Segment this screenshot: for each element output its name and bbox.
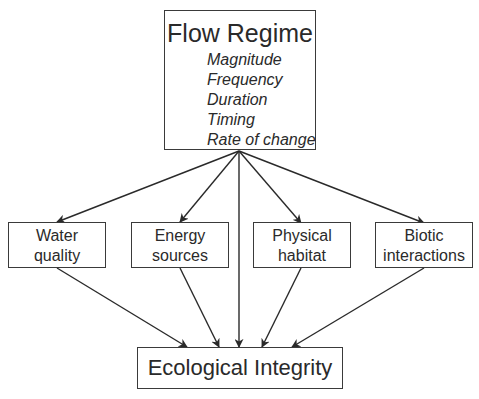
physical-habitat-label: Physical habitat [254,226,350,266]
energy-sources-label: Energy sources [132,226,228,266]
arrow-flow-to-water [57,151,239,222]
label-line-2: sources [132,246,228,266]
physical-habitat-box: Physical habitat [253,222,351,268]
ecological-integrity-box: Ecological Integrity [137,347,343,389]
arrow-water-to-integrity [57,268,187,347]
water-quality-label: Water quality [9,226,105,266]
ecological-integrity-label: Ecological Integrity [138,355,342,381]
biotic-interactions-box: Biotic interactions [375,222,473,268]
label-line-2: quality [9,246,105,266]
attribute-rate-of-change: Rate of change [207,130,316,150]
attribute-duration: Duration [207,90,316,110]
arrow-flow-to-biotic [239,151,424,223]
label-line-1: Water [9,226,105,246]
biotic-interactions-label: Biotic interactions [376,226,472,266]
label-line-1: Biotic [376,226,472,246]
flow-regime-box: Flow Regime Magnitude Frequency Duration… [164,10,316,150]
flow-regime-attributes: Magnitude Frequency Duration Timing Rate… [207,50,316,150]
arrow-flow-to-physical [239,151,301,223]
flow-regime-title: Flow Regime [165,19,315,47]
arrow-physical-to-integrity [262,268,301,347]
attribute-timing: Timing [207,110,316,130]
arrow-energy-to-integrity [180,268,219,347]
arrow-flow-to-energy [180,151,239,222]
energy-sources-box: Energy sources [131,222,229,268]
arrow-biotic-to-integrity [292,268,424,347]
label-line-2: interactions [376,246,472,266]
label-line-1: Energy [132,226,228,246]
attribute-magnitude: Magnitude [207,50,316,70]
label-line-2: habitat [254,246,350,266]
water-quality-box: Water quality [8,222,106,268]
attribute-frequency: Frequency [207,70,316,90]
label-line-1: Physical [254,226,350,246]
